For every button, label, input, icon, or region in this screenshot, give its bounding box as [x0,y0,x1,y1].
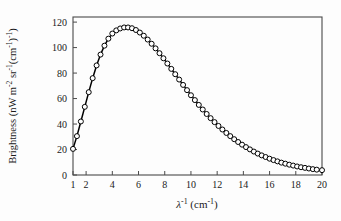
x-tick-label: 18 [291,179,301,190]
y-tick-label: 120 [52,17,67,28]
data-point-marker [173,72,178,77]
x-tick-label: 2 [84,179,89,190]
data-point-marker [98,52,103,57]
data-point-marker [188,93,193,98]
x-tick-label: 16 [265,179,275,190]
x-tick-label: 4 [110,179,115,190]
x-tick-label: 1 [71,179,76,190]
data-point-marker [153,46,158,51]
data-point-marker [314,167,319,172]
data-point-marker [177,77,182,82]
data-point-marker [320,168,325,173]
x-tick-label: 12 [212,179,222,190]
data-point-marker [102,43,107,48]
data-point-marker [165,61,170,66]
data-point-marker [192,98,197,103]
x-tick-label: 20 [317,179,327,190]
figure-container: 12468101214161820 020406080100120 λ-1 (c… [0,0,341,221]
y-tick-label: 0 [62,170,67,181]
data-point-marker [71,146,76,151]
data-point-marker [90,76,95,81]
x-tick-label: 10 [186,179,196,190]
data-point-marker [212,120,217,125]
data-point-marker [141,33,146,38]
y-tick-label: 40 [57,119,67,130]
x-tick-label: 8 [162,179,167,190]
data-point-marker [149,41,154,46]
data-point-marker [200,107,205,112]
y-tick-label: 20 [57,144,67,155]
y-tick-label: 60 [57,93,67,104]
data-point-marker [78,119,83,124]
data-point-marker [161,56,166,61]
y-axis-label: Brightness (nW m-2 sr-1(cm-1)-1) [5,28,20,164]
data-point-marker [169,66,174,71]
brightness-spectrum-chart: 12468101214161820 020406080100120 λ-1 (c… [0,0,341,221]
data-point-marker [185,88,190,93]
data-point-marker [208,116,213,121]
data-point-marker [157,51,162,56]
data-point-marker [196,102,201,107]
data-point-marker [86,90,91,95]
y-tick-label: 80 [57,68,67,79]
data-point-marker [181,82,186,87]
x-tick-label: 6 [136,179,141,190]
x-tick-label: 14 [238,179,248,190]
data-point-marker [74,134,79,139]
y-tick-label: 100 [52,42,67,53]
data-point-marker [106,36,111,41]
data-point-marker [94,63,99,68]
data-point-marker [145,37,150,42]
data-point-marker [204,111,209,116]
data-point-marker [82,104,87,109]
